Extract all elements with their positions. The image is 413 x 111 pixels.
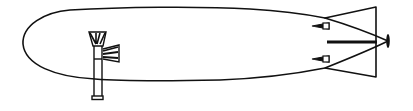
airship-drawing [0,0,413,111]
gondola [89,32,119,100]
stabilizers [312,23,329,62]
propeller-icon [386,34,390,48]
